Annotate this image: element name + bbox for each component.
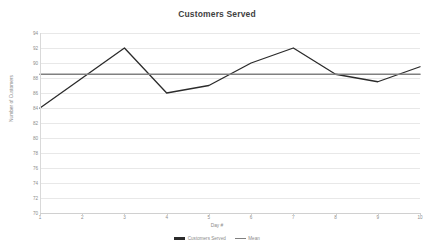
legend-swatch [235,238,246,239]
chart-title: Customers Served [0,9,434,19]
plot-area [40,33,420,213]
x-axis-tick-mark [251,213,252,216]
legend-swatch [174,237,185,239]
x-axis-tick-mark [420,213,421,216]
x-axis-title: Day # [0,223,434,228]
y-axis-tick-label: 78 [12,151,38,156]
x-axis-tick-mark [167,213,168,216]
x-axis-tick-mark [378,213,379,216]
y-axis-tick-label: 86 [12,91,38,96]
x-axis-line [40,213,420,214]
legend-item[interactable]: Customers Served [174,236,226,241]
y-axis-tick-label: 76 [12,166,38,171]
y-axis-title: Number of Customers [9,69,14,129]
x-axis-tick-mark [124,213,125,216]
y-axis-line [40,33,41,214]
series-lines [40,33,420,213]
y-axis-tick-label: 90 [12,61,38,66]
y-axis-tick-label: 82 [12,121,38,126]
y-axis-tick-label: 94 [12,31,38,36]
legend-label: Customers Served [188,236,226,241]
series-line [40,48,420,108]
y-axis-tick-label: 72 [12,196,38,201]
x-axis-tick-mark [336,213,337,216]
chart-legend: Customers ServedMean [0,236,434,241]
x-axis-tick-mark [293,213,294,216]
y-axis-tick-label: 80 [12,136,38,141]
y-axis-tick-label: 84 [12,106,38,111]
x-axis-tick-mark [40,213,41,216]
chart-container: Customers Served 94929088868482807876747… [0,0,434,251]
x-axis-tick-mark [82,213,83,216]
x-axis-tick-mark [209,213,210,216]
y-axis-tick-label: 92 [12,46,38,51]
legend-item[interactable]: Mean [235,236,260,241]
y-axis-tick-label: 88 [12,76,38,81]
y-axis-tick-label: 70 [12,211,38,216]
legend-label: Mean [248,236,260,241]
y-axis-tick-label: 74 [12,181,38,186]
